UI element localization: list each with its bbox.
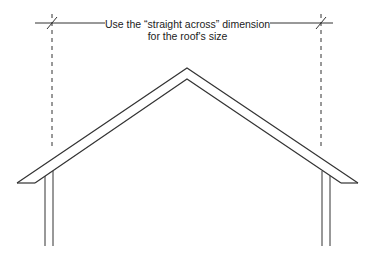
annotation-line-1: Use the “straight across” dimension: [0, 18, 375, 30]
roof-inner-line: [35, 79, 341, 183]
roof-outer-line: [17, 68, 358, 183]
annotation-line-2: for the roof's size: [0, 30, 375, 42]
